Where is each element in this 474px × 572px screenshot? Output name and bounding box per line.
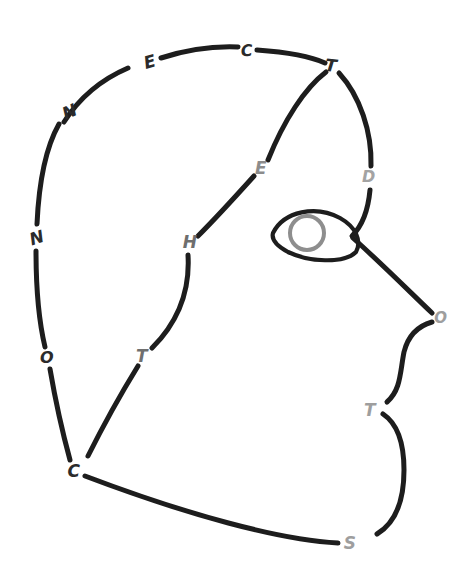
letter-h-middle: H (183, 234, 198, 251)
face-outline-strokes (36, 47, 432, 543)
letter-t-top-right: T (324, 57, 338, 75)
cheek-h-to-t (152, 255, 188, 348)
letter-c-top: C (240, 43, 253, 60)
letter-t-mouth: T (364, 402, 376, 419)
back-of-head-to-d (339, 73, 371, 166)
skull-arc-left-lower (36, 251, 45, 347)
letter-s-jaw: S (344, 535, 357, 552)
forehead-t-to-e (268, 72, 326, 160)
skull-arc-left-upper (37, 124, 59, 224)
skull-arc-top-left (161, 47, 238, 58)
drawing-canvas: ECTNNEDHOTOTCS (0, 0, 474, 572)
letter-t-lower-left: T (136, 348, 148, 365)
brow-e-to-h (198, 176, 254, 236)
letter-d-right: D (362, 169, 376, 185)
eye-group (290, 216, 324, 250)
skull-arc-top-right (257, 50, 325, 63)
letter-o-left: O (40, 350, 54, 366)
eye-iris (290, 216, 324, 250)
skull-arc-left-bottom (50, 369, 70, 460)
letter-o-nose: O (434, 311, 447, 326)
lip-to-jaw (377, 414, 404, 534)
face-profile-illustration (0, 0, 474, 572)
letter-c-chin: C (68, 463, 81, 480)
cheek-t-to-c (88, 366, 138, 456)
nose-bridge (353, 238, 432, 313)
letter-e-middle: E (255, 160, 267, 177)
jawline-s-to-c (85, 476, 338, 543)
nose-to-lip (387, 322, 432, 402)
